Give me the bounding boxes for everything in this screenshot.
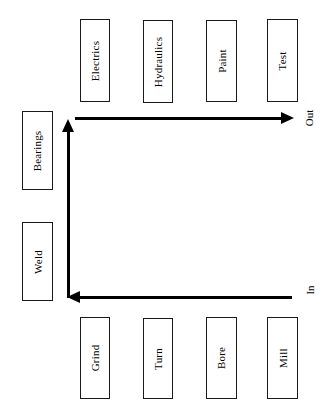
station-label-hydraulics: Hydraulics: [152, 36, 164, 86]
station-label-bore: Bore: [216, 347, 228, 369]
station-box-turn: Turn: [143, 318, 173, 399]
station-label-paint: Paint: [216, 49, 228, 73]
station-box-paint: Paint: [206, 20, 237, 102]
station-label-mill: Mill: [277, 348, 289, 368]
station-box-electrics: Electrics: [80, 19, 110, 102]
station-label-test: Test: [276, 51, 288, 70]
inbound-flow-label: In: [304, 280, 316, 300]
station-box-test: Test: [267, 19, 298, 102]
outbound-flow-arrow-shaft: [75, 117, 282, 120]
station-label-electrics: Electrics: [89, 40, 101, 80]
inbound-flow-arrow-shaft: [80, 296, 292, 299]
outbound-flow-label: Out: [303, 107, 315, 129]
outbound-flow-arrow-head: [281, 112, 294, 124]
vertical-transfer-arrow-shaft: [67, 131, 70, 298]
station-box-grind: Grind: [80, 317, 110, 399]
factory-layout-diagram: Electrics Hydraulics Paint Test Bearings…: [0, 0, 329, 412]
station-label-turn: Turn: [152, 348, 164, 370]
station-box-bearings: Bearings: [22, 111, 53, 190]
station-label-weld: Weld: [32, 250, 44, 274]
station-box-mill: Mill: [267, 317, 298, 399]
vertical-transfer-arrow-head: [62, 119, 74, 132]
station-label-bearings: Bearings: [32, 130, 44, 171]
station-box-hydraulics: Hydraulics: [143, 20, 173, 103]
station-box-weld: Weld: [22, 222, 53, 301]
station-box-bore: Bore: [206, 317, 237, 399]
station-label-grind: Grind: [89, 345, 101, 372]
